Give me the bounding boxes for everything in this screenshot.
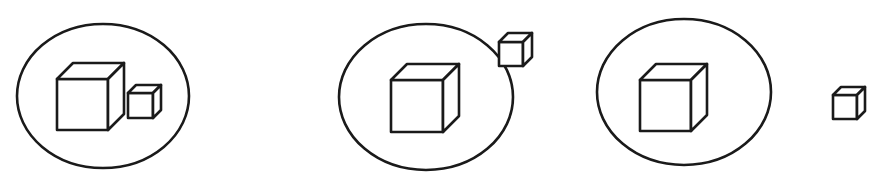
large-cube-front-face	[391, 80, 443, 132]
panel-outside	[597, 19, 865, 165]
small-cube	[833, 87, 865, 119]
small-cube-front-face	[128, 93, 153, 118]
panel-on-boundary	[339, 24, 532, 170]
small-cube-front-face	[499, 42, 523, 66]
small-cube	[128, 85, 161, 118]
large-cube-front-face	[57, 79, 108, 130]
large-cube	[640, 64, 707, 131]
small-cube	[499, 33, 532, 66]
large-cube-front-face	[640, 80, 691, 131]
large-cube	[391, 64, 459, 132]
diagram-canvas	[0, 0, 880, 186]
large-cube	[57, 63, 124, 130]
small-cube-front-face	[833, 95, 857, 119]
panel-inside	[17, 24, 189, 168]
